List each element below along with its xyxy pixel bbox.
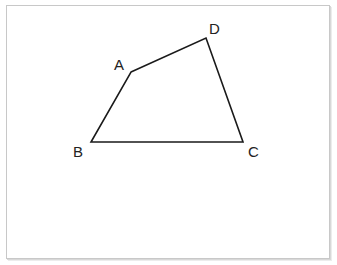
vertex-label-a: A <box>114 56 124 73</box>
vertex-label-b: B <box>73 143 83 160</box>
quadrilateral-diagram: A B C D <box>0 0 337 265</box>
vertex-label-d: D <box>209 20 220 37</box>
quadrilateral-abcd <box>91 38 243 142</box>
vertex-label-c: C <box>248 143 259 160</box>
